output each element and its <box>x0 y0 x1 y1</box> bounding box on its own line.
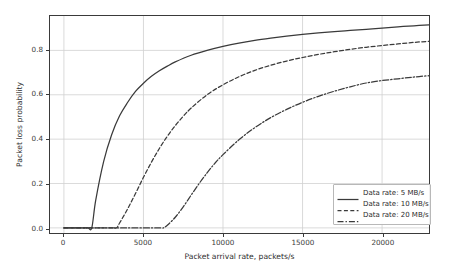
y-tick-label: 0.6 <box>17 91 43 98</box>
y-tick-label: 0.4 <box>17 136 43 143</box>
legend-label: Data rate: 10 MB/s <box>363 201 429 208</box>
chart-legend[interactable]: Data rate: 5 MB/sData rate: 10 MB/sData … <box>333 184 431 225</box>
legend-item-2[interactable]: Data rate: 20 MB/s <box>337 210 426 221</box>
x-tick-mark <box>143 234 144 237</box>
legend-line-sample-dashed <box>337 200 359 209</box>
legend-line-sample-dashdot <box>337 211 359 220</box>
legend-line-sample-solid <box>337 189 359 198</box>
y-tick-label: 0.0 <box>17 225 43 232</box>
y-tick-mark <box>46 139 49 140</box>
x-tick-mark <box>63 234 64 237</box>
y-tick-label: 0.2 <box>17 180 43 187</box>
y-tick-label: 0.8 <box>17 46 43 53</box>
y-tick-mark <box>46 229 49 230</box>
y-tick-mark <box>46 184 49 185</box>
chart-figure: Packet loss probability 0500010000150002… <box>0 0 450 278</box>
x-tick-label: 0 <box>61 239 66 246</box>
x-tick-mark <box>383 234 384 237</box>
x-axis-label: Packet arrival rate, packets/s <box>49 252 430 261</box>
x-tick-label: 10000 <box>211 239 234 246</box>
legend-item-1[interactable]: Data rate: 10 MB/s <box>337 199 426 210</box>
y-tick-mark <box>46 50 49 51</box>
x-tick-mark <box>223 234 224 237</box>
legend-item-0[interactable]: Data rate: 5 MB/s <box>337 188 426 199</box>
legend-label: Data rate: 20 MB/s <box>363 212 429 219</box>
x-tick-label: 20000 <box>371 239 394 246</box>
x-tick-label: 15000 <box>291 239 314 246</box>
y-tick-mark <box>46 94 49 95</box>
x-tick-label: 5000 <box>134 239 152 246</box>
x-tick-mark <box>303 234 304 237</box>
legend-label: Data rate: 5 MB/s <box>363 190 424 197</box>
